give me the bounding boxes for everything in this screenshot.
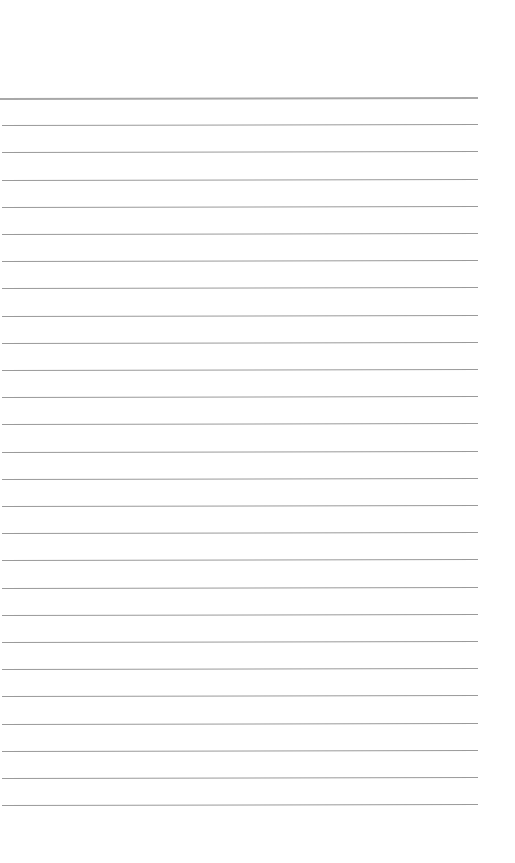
rule-line xyxy=(2,233,478,235)
rule-line xyxy=(2,723,478,725)
rule-line xyxy=(2,396,478,398)
rule-line xyxy=(2,451,478,453)
rule-line xyxy=(2,559,478,561)
rule-line xyxy=(2,342,478,344)
rule-line xyxy=(2,179,478,181)
rule-line xyxy=(2,587,478,589)
rule-line xyxy=(2,804,478,806)
rule-line xyxy=(2,505,478,507)
rule-line xyxy=(2,423,478,425)
lined-paper-page xyxy=(0,0,515,863)
rule-line xyxy=(2,695,478,697)
rule-line xyxy=(2,260,478,262)
rule-line xyxy=(2,532,478,534)
header-rule-line xyxy=(0,97,478,100)
rule-line xyxy=(2,668,478,670)
rule-line xyxy=(2,287,478,289)
rule-line xyxy=(2,777,478,779)
rule-line xyxy=(2,478,478,480)
rule-line xyxy=(2,614,478,616)
rule-line xyxy=(2,315,478,317)
rule-line xyxy=(2,151,478,153)
rule-line xyxy=(2,750,478,752)
rule-line xyxy=(2,641,478,643)
rule-line xyxy=(2,369,478,371)
rule-line xyxy=(2,124,478,126)
rule-line xyxy=(2,206,478,208)
